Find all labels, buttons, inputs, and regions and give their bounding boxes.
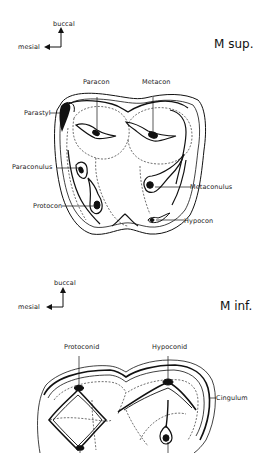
- protoconid-label: Protoconid: [64, 344, 99, 351]
- upper-leader-lines: [50, 97, 191, 220]
- parastyl-label: Parastyl: [24, 110, 51, 117]
- lower-buccal-label: buccal: [54, 280, 76, 287]
- metaconulus-label: Metaconulus: [190, 184, 232, 191]
- lower-mesial-label: mesial: [18, 304, 40, 311]
- cingulum-label: Cingulum: [216, 395, 248, 402]
- metacon-label: Metacon: [142, 79, 171, 86]
- hypocon-label: Hypocon: [184, 218, 213, 225]
- paracon-label: Paracon: [83, 79, 110, 86]
- paraconulus-label: Paraconulus: [12, 164, 52, 171]
- lower-molar-title: M inf.: [220, 300, 252, 312]
- lower-molar-crown: [38, 360, 216, 453]
- upper-orientation-arrows: [47, 30, 61, 47]
- upper-molar-title: M sup.: [214, 38, 253, 50]
- upper-buccal-label: buccal: [53, 21, 75, 28]
- molar-diagram-drawing: [0, 0, 276, 453]
- upper-mesial-label: mesial: [18, 44, 40, 51]
- upper-molar-crown: [55, 93, 206, 234]
- hypoconid-label: Hypoconid: [152, 344, 187, 351]
- protocon-label: Protocon: [33, 203, 62, 210]
- lower-orientation-arrows: [49, 290, 63, 307]
